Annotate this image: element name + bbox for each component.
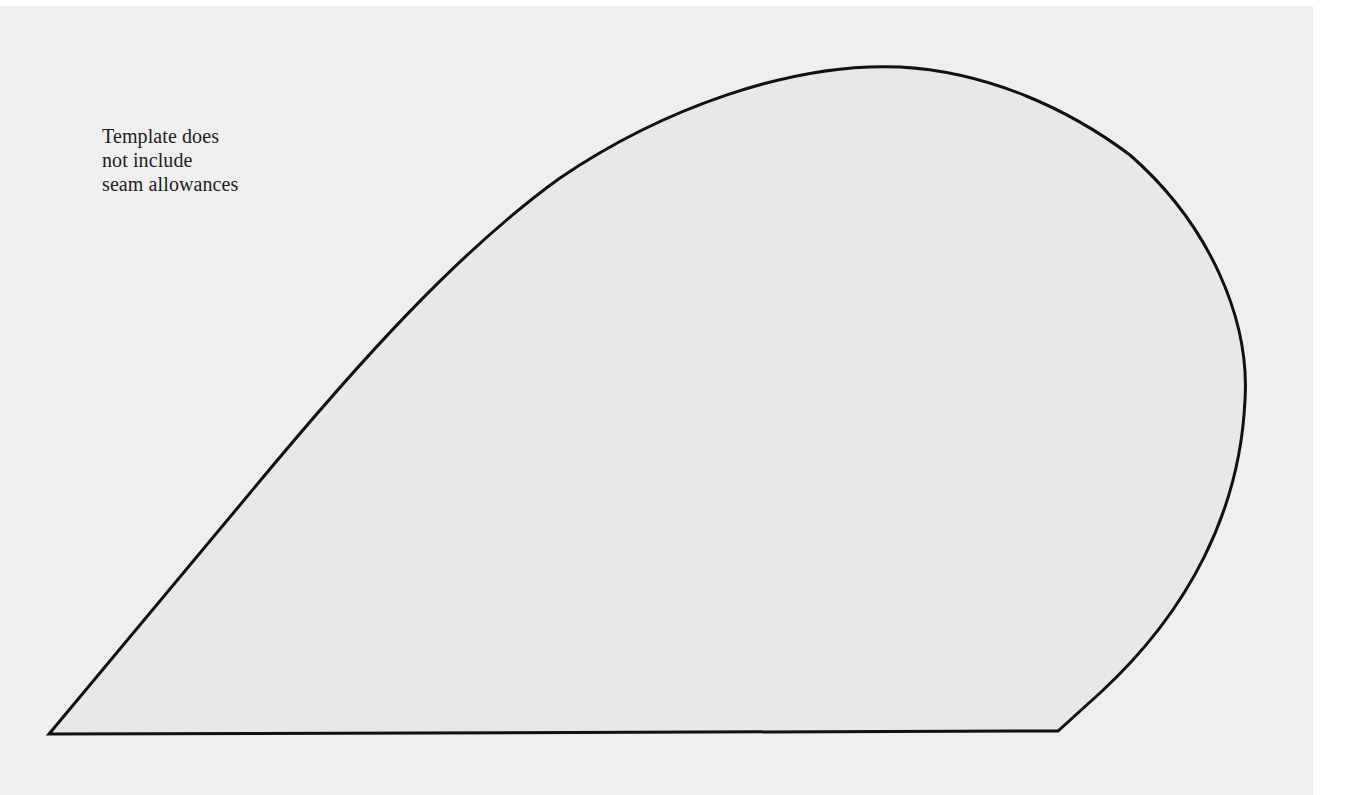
note-line-1: Template does — [102, 124, 238, 148]
note-line-3: seam allowances — [102, 172, 238, 196]
seam-allowance-note: Template does not include seam allowance… — [102, 124, 238, 196]
note-line-2: not include — [102, 148, 238, 172]
pattern-template-shape — [0, 0, 1347, 795]
